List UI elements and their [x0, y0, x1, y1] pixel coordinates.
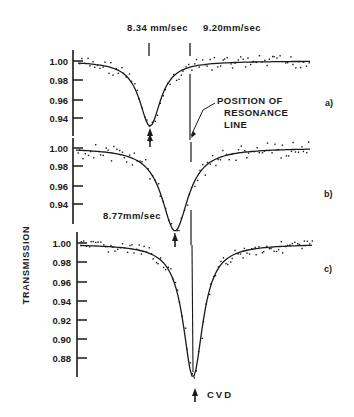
panel-b-tick-098: 0.98	[50, 161, 69, 172]
panel-c-tick-096: 0.96	[53, 277, 72, 288]
resonance-line-c	[192, 245, 193, 372]
panel-label-a: a)	[325, 98, 333, 108]
panel-c-tick-098: 0.98	[53, 257, 72, 268]
panel-c-data-points	[81, 240, 313, 378]
cvd-label: CVD	[207, 389, 233, 400]
panel-c-tick-090: 0.90	[53, 334, 72, 345]
panel-c-tick-092: 0.92	[53, 315, 72, 326]
panel-c: 1.00 0.98 0.96 0.94 0.92 0.90 0.88 CVD	[53, 232, 314, 402]
resonance-label-3: LINE	[224, 119, 247, 130]
panel-b-tick-096: 0.96	[50, 181, 69, 192]
panel-b: 1.00 0.98 0.96 0.94 8.77mm/sec	[50, 134, 311, 247]
panel-a-tick-096: 0.96	[50, 95, 69, 106]
panel-a-tick-094: 0.94	[50, 113, 69, 124]
y-axis-label: TRANSMISSION	[21, 226, 31, 305]
resonance-label-1: POSITION OF	[217, 95, 283, 106]
mossbauer-figure: TRANSMISSION 8.34 mm/sec 9.20mm/sec POSI…	[0, 0, 354, 417]
panel-a-tick-098: 0.98	[50, 75, 69, 86]
panel-c-tick-088: 0.88	[53, 353, 72, 364]
panel-c-tick-100: 1.00	[53, 238, 72, 249]
panel-b-tick-100: 1.00	[50, 143, 69, 154]
panel-c-tick-094: 0.94	[53, 296, 72, 307]
velocity-label-834: 8.34 mm/sec	[127, 22, 188, 33]
resonance-label-2: RESONANCE	[224, 107, 288, 118]
velocity-label-920: 9.20mm/sec	[203, 22, 261, 33]
panel-a-tick-100: 1.00	[50, 56, 69, 67]
resonance-leader	[191, 103, 215, 136]
panel-label-b: b)	[324, 189, 333, 199]
panel-b-tick-094: 0.94	[50, 199, 69, 210]
velocity-label-877: 8.77mm/sec	[103, 210, 161, 221]
panel-label-c: c)	[324, 264, 332, 274]
panel-c-fit-curve	[80, 245, 312, 376]
